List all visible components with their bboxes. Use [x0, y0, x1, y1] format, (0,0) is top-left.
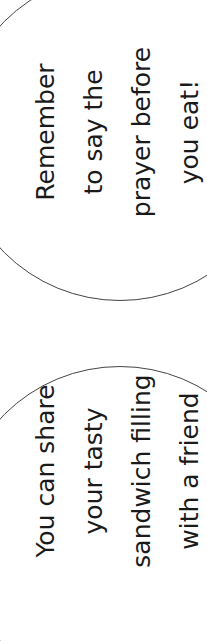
text-line: you eat! — [166, 12, 207, 252]
text-line: You can share — [22, 301, 70, 641]
text-line: prayer before — [118, 12, 166, 252]
text-line: your tasty — [70, 301, 118, 641]
text-line: to say the — [70, 12, 118, 252]
top-card-text: Remember to say the prayer before you ea… — [22, 12, 207, 252]
text-line: sandwich filling — [118, 301, 166, 641]
text-line: with a friend — [166, 301, 207, 641]
text-line: Remember — [22, 12, 70, 252]
bottom-card-text: You can share your tasty sandwich fillin… — [22, 301, 207, 641]
